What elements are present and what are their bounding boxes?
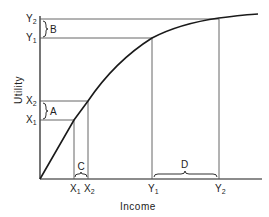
y-tick-x1: X1 — [26, 114, 37, 126]
y-tick-y1: Y1 — [26, 32, 37, 44]
x-tick-x1: X1 — [70, 183, 81, 195]
y-tick-y2: Y2 — [26, 13, 37, 25]
y-axis-title: Utility — [13, 76, 24, 104]
utility-income-diagram: B A C D Y2 Y1 X2 X1 X1 X2 Y1 Y2 Income U… — [0, 0, 269, 217]
utility-curve — [40, 14, 258, 179]
y-tick-x2: X2 — [26, 95, 37, 107]
x-tick-y1: Y1 — [148, 183, 159, 195]
brace-c — [75, 172, 87, 177]
brace-label-a: A — [50, 106, 57, 117]
brace-a — [43, 103, 48, 119]
brace-label-d: D — [181, 159, 188, 170]
brace-label-c: C — [78, 161, 85, 172]
brace-b — [43, 21, 48, 37]
brace-label-b: B — [50, 24, 57, 35]
x-axis-title: Income — [120, 201, 156, 212]
x-tick-x2: X2 — [84, 183, 95, 195]
x-tick-y2: Y2 — [215, 183, 226, 195]
brace-d — [154, 171, 217, 177]
